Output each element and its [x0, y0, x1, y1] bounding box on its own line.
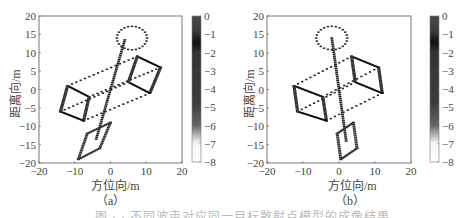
y-tick-label: 15: [253, 28, 265, 40]
colorbar-tick-label: 0: [204, 10, 210, 22]
colorbar-tick-label: −5: [442, 101, 454, 113]
colorbar-tick-label: −4: [204, 83, 216, 95]
y-tick-label: −15: [19, 139, 37, 151]
y-tick-label: −15: [247, 139, 265, 151]
y-tick-label: −10: [19, 120, 37, 132]
plot-b-svg: −20−100102020151050−5−10−15−200−1−2−3−4−…: [229, 0, 463, 200]
colorbar-tick-label: −4: [442, 83, 454, 95]
colorbar-tick-label: −5: [204, 101, 216, 113]
colorbar-tick-label: −2: [204, 47, 216, 59]
y-tick-label: −5: [24, 102, 36, 114]
colorbar-tick-label: −8: [204, 156, 216, 168]
plot-a-svg: −20−100102020151050−5−10−15−200−1−2−3−4−…: [0, 0, 231, 200]
y-tick-label: 10: [253, 47, 265, 59]
x-tick-label: 10: [141, 165, 153, 177]
colorbar-tick-label: −2: [442, 47, 454, 59]
figure-caption: 图 · · 不同波束对应同一目标散射点模型的成像结果: [95, 207, 390, 218]
x-tick-label: −10: [294, 165, 312, 177]
y-axis-label-a: 距离向/m: [6, 69, 24, 118]
colorbar-tick-label: −7: [204, 138, 216, 150]
y-tick-label: −10: [247, 120, 265, 132]
colorbar-tick-label: −6: [204, 120, 216, 132]
colorbar-tick-label: −3: [442, 65, 454, 77]
y-tick-label: 15: [25, 28, 37, 40]
y-tick-label: 5: [259, 65, 265, 77]
y-tick-label: 20: [25, 10, 37, 22]
colorbar-tick-label: 0: [442, 10, 448, 22]
x-tick-label: 20: [177, 165, 189, 177]
colorbar-tick-label: −1: [442, 28, 454, 40]
colorbar-tick-label: −6: [442, 120, 454, 132]
y-tick-label: 0: [259, 84, 265, 96]
y-tick-label: 10: [25, 47, 37, 59]
y-tick-label: 20: [253, 10, 265, 22]
colorbar-tick-label: −8: [442, 156, 454, 168]
y-axis-label-b: 距离向/m: [240, 69, 258, 118]
panel-b: −20−100102020151050−5−10−15−200−1−2−3−4−…: [229, 0, 460, 218]
colorbar-tick-label: −7: [442, 138, 454, 150]
colorbar-tick-label: −3: [204, 65, 216, 77]
x-tick-label: −10: [66, 165, 84, 177]
y-tick-label: −20: [19, 157, 37, 169]
panel-a: −20−100102020151050−5−10−15−200−1−2−3−4−…: [0, 0, 231, 218]
y-tick-label: 5: [31, 65, 37, 77]
x-tick-label: 20: [406, 165, 418, 177]
y-tick-label: −20: [247, 157, 265, 169]
colorbar-tick-label: −1: [204, 28, 216, 40]
y-tick-label: 0: [31, 84, 37, 96]
